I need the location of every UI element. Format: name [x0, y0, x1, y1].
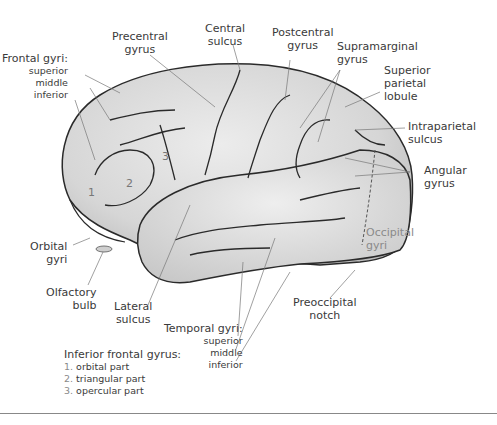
label-orbital-gyri: Orbital gyri	[30, 240, 67, 266]
label-precentral-gyrus: Precentral gyrus	[112, 30, 168, 56]
bottom-rule	[0, 413, 497, 414]
label-line: gyrus	[112, 43, 168, 56]
legend-number: 2.	[64, 373, 73, 384]
label-line: sulcus	[205, 35, 245, 48]
legend-label: orbital part	[76, 361, 129, 372]
legend-title: Inferior frontal gyrus:	[64, 348, 181, 361]
legend-item-2: 2. triangular part	[64, 373, 181, 385]
legend-label: triangular part	[76, 373, 145, 384]
region-number-1: 1	[88, 186, 95, 199]
temporal-gyri-superior: superior	[164, 335, 243, 347]
label-line: Angular	[424, 164, 467, 177]
inferior-frontal-gyrus-legend: Inferior frontal gyrus: 1. orbital part …	[64, 348, 181, 397]
label-postcentral-gyrus: Postcentral gyrus	[272, 26, 333, 52]
label-line: Occipital	[366, 226, 414, 239]
legend-number: 3.	[64, 385, 73, 396]
olfactory-bulb	[96, 246, 112, 252]
label-superior-parietal-lobule: Superior parietal lobule	[384, 64, 431, 103]
label-line: parietal	[384, 77, 431, 90]
label-preoccipital-notch: Preoccipital notch	[293, 296, 357, 322]
label-line: lobule	[384, 90, 431, 103]
legend-item-1: 1. orbital part	[64, 361, 181, 373]
legend-item-3: 3. opercular part	[64, 385, 181, 397]
frontal-gyri-title: Frontal gyri:	[2, 52, 68, 65]
label-supramarginal-gyrus: Supramarginal gyrus	[337, 40, 418, 66]
label-line: gyrus	[424, 177, 467, 190]
label-line: sulcus	[114, 313, 152, 326]
legend-number: 1.	[64, 361, 73, 372]
label-line: gyri	[30, 253, 67, 266]
label-line: Orbital	[30, 240, 67, 253]
legend-label: opercular part	[76, 385, 144, 396]
frontal-gyri-middle: middle	[2, 77, 68, 89]
label-line: Lateral	[114, 300, 152, 313]
label-line: Central	[205, 22, 245, 35]
label-line: Supramarginal	[337, 40, 418, 53]
label-line: sulcus	[408, 133, 476, 146]
label-line: gyrus	[272, 39, 333, 52]
label-central-sulcus: Central sulcus	[205, 22, 245, 48]
label-angular-gyrus: Angular gyrus	[424, 164, 467, 190]
region-number-3: 3	[162, 150, 169, 163]
region-number-2: 2	[126, 177, 133, 190]
label-intraparietal-sulcus: Intraparietal sulcus	[408, 120, 476, 146]
label-line: gyri	[366, 239, 414, 252]
label-line: Olfactory	[46, 286, 96, 299]
label-line: Postcentral	[272, 26, 333, 39]
label-olfactory-bulb: Olfactory bulb	[46, 286, 96, 312]
temporal-gyri-title: Temporal gyri:	[164, 322, 243, 335]
label-line: Precentral	[112, 30, 168, 43]
frontal-gyri-superior: superior	[2, 65, 68, 77]
label-line: bulb	[46, 299, 96, 312]
label-lateral-sulcus: Lateral sulcus	[114, 300, 152, 326]
label-frontal-gyri: Frontal gyri: superior middle inferior	[2, 52, 68, 101]
label-line: Preoccipital	[293, 296, 357, 309]
label-line: notch	[293, 309, 357, 322]
frontal-gyri-inferior: inferior	[2, 89, 68, 101]
label-line: Intraparietal	[408, 120, 476, 133]
label-line: Superior	[384, 64, 431, 77]
label-occipital-gyri: Occipital gyri	[366, 226, 414, 252]
